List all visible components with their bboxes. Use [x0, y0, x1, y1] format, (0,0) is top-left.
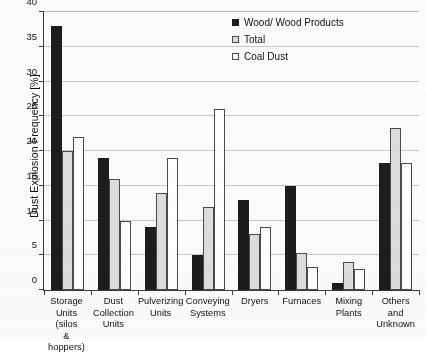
- legend-item[interactable]: Coal Dust: [232, 48, 382, 65]
- x-axis-label: DustCollectionUnits: [90, 296, 137, 338]
- bar-group: [185, 12, 232, 290]
- bar-coal: [307, 267, 318, 290]
- bar-total: [62, 151, 73, 290]
- x-tick: [185, 290, 186, 295]
- legend-label: Wood/ Wood Products: [244, 17, 344, 28]
- bar-coal: [167, 158, 178, 290]
- legend-swatch-icon: [232, 19, 239, 26]
- chart-legend: Wood/ Wood ProductsTotalCoal Dust: [232, 14, 382, 65]
- x-tick: [44, 290, 45, 295]
- bar-total: [296, 253, 307, 290]
- y-tick-label: 0: [11, 274, 37, 285]
- bar-wood: [379, 163, 390, 290]
- legend-label: Coal Dust: [244, 51, 288, 62]
- y-tick-label: 5: [11, 239, 37, 250]
- bar-wood: [238, 200, 249, 290]
- x-axis-label: ConveyingSystems: [184, 296, 231, 338]
- legend-swatch-icon: [232, 53, 239, 60]
- bar-coal: [401, 163, 412, 290]
- x-axis-label-line: Storage: [44, 296, 89, 308]
- x-axis-label: StorageUnits (silos& hoppers): [43, 296, 90, 338]
- y-tick-label: 30: [11, 65, 37, 76]
- bar-coal: [260, 227, 271, 290]
- x-tick: [138, 290, 139, 295]
- x-axis-label-line: Plants: [326, 308, 371, 320]
- bar-wood: [145, 227, 156, 290]
- bar-wood: [192, 255, 203, 290]
- x-tick: [278, 290, 279, 295]
- bar-wood: [98, 158, 109, 290]
- y-tick-label: 15: [11, 169, 37, 180]
- legend-item[interactable]: Wood/ Wood Products: [232, 14, 382, 31]
- bar-group: [91, 12, 138, 290]
- y-tick-label: 25: [11, 100, 37, 111]
- bar-wood: [285, 186, 296, 290]
- x-axis-label-line: Units: [91, 319, 136, 331]
- x-axis-label-line: Dryers: [232, 296, 277, 308]
- bar-total: [390, 128, 401, 290]
- x-axis-label-line: Units (silos: [44, 308, 89, 331]
- x-axis-label: Dryers: [231, 296, 278, 338]
- legend-swatch-icon: [232, 36, 239, 43]
- x-tick: [372, 290, 373, 295]
- x-axis-label-line: Units: [138, 308, 183, 320]
- x-axis-label-line: Unknown: [373, 319, 418, 331]
- x-axis-label-line: Others and: [373, 296, 418, 319]
- x-axis-label-line: Pulverizing: [138, 296, 183, 308]
- bar-total: [109, 179, 120, 290]
- x-tick: [232, 290, 233, 295]
- y-tick-label: 35: [11, 30, 37, 41]
- x-tick: [419, 290, 420, 295]
- bar-coal: [354, 269, 365, 290]
- bar-total: [249, 234, 260, 290]
- x-axis-label: PulverizingUnits: [137, 296, 184, 338]
- x-axis-label-line: Mixing: [326, 296, 371, 308]
- legend-item[interactable]: Total: [232, 31, 382, 48]
- x-axis-labels: StorageUnits (silos& hoppers)DustCollect…: [43, 296, 419, 338]
- bar-total: [156, 193, 167, 290]
- y-tick-label: 10: [11, 204, 37, 215]
- x-tick: [325, 290, 326, 295]
- y-tick-label: 40: [11, 0, 37, 7]
- bar-total: [203, 207, 214, 290]
- x-tick: [91, 290, 92, 295]
- bar-wood: [332, 283, 343, 290]
- x-axis-label-line: Conveying: [185, 296, 230, 308]
- x-axis-label-line: Collection: [91, 308, 136, 320]
- x-axis-label: Furnaces: [278, 296, 325, 338]
- x-axis-label-line: Furnaces: [279, 296, 324, 308]
- bar-group: [138, 12, 185, 290]
- x-axis-label-line: Dust: [91, 296, 136, 308]
- legend-label: Total: [244, 34, 265, 45]
- x-axis-label-line: & hoppers): [44, 331, 89, 354]
- y-axis-title: Dust Explosion Frequency [%]: [28, 26, 40, 266]
- x-axis-label: Others andUnknown: [372, 296, 419, 338]
- bar-wood: [51, 26, 62, 290]
- bar-total: [343, 262, 354, 290]
- y-tick-label: 20: [11, 135, 37, 146]
- bar-coal: [120, 221, 131, 291]
- x-axis-label-line: Systems: [185, 308, 230, 320]
- x-axis-label: MixingPlants: [325, 296, 372, 338]
- bar-group: [44, 12, 91, 290]
- bar-coal: [214, 109, 225, 290]
- bar-coal: [73, 137, 84, 290]
